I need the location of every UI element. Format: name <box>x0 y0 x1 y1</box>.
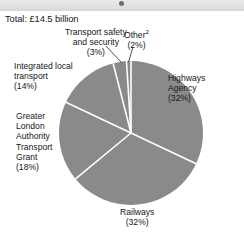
chart-figure: Total: £14.5 billion Transport safety an… <box>0 0 244 247</box>
pie-label-percent: (18%) <box>16 162 52 172</box>
pie-label-integrated-local-transport: Integrated local transport (14%) <box>14 61 73 92</box>
pie-label-line: London <box>16 121 52 131</box>
pie-label-percent: (2%) <box>124 40 149 50</box>
pie-label-percent: (3%) <box>65 47 127 57</box>
pie-label-percent: (32%) <box>168 93 205 103</box>
pie-label-line: Transport safety <box>65 27 127 37</box>
pie-label-line: Transport <box>16 142 52 152</box>
pie-label-percent: (32%) <box>120 217 154 227</box>
pie-label-line: Railways <box>120 207 154 217</box>
pie-label-line: Other2 <box>124 30 149 40</box>
pie-label-line: and security <box>65 37 127 47</box>
pie-label-highways-agency: Highways Agency (32%) <box>168 73 205 104</box>
pie-label-line: transport <box>14 71 73 81</box>
pie-label-line: Authority <box>16 131 52 141</box>
pie-label-line: Highways <box>168 73 205 83</box>
pie-label-line: Agency <box>168 83 205 93</box>
pie-label-percent: (14%) <box>14 81 73 91</box>
pie-label-text: Other <box>124 30 146 40</box>
pie-label-gla-transport-grant: Greater London Authority Transport Grant… <box>16 111 52 172</box>
pie-label-railways: Railways (32%) <box>120 207 154 227</box>
pie-label-line: Integrated local <box>14 61 73 71</box>
pie-label-line: Grant <box>16 152 52 162</box>
footnote-marker: 2 <box>146 28 149 35</box>
pie-label-transport-safety: Transport safety and security (3%) <box>65 27 127 58</box>
pie-label-other: Other2 (2%) <box>124 30 149 50</box>
pie-label-line: Greater <box>16 111 52 121</box>
